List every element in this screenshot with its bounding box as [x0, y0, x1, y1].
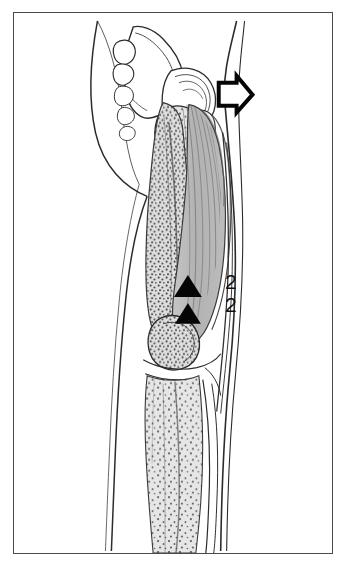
- tibia-stippled: [145, 376, 202, 553]
- figure-frame-border: 2 2: [13, 12, 333, 554]
- figure-page: 2 2: [0, 0, 348, 567]
- label-2-upper: 2: [225, 271, 237, 292]
- label-2-lower: 2: [225, 294, 237, 315]
- anatomy-illustration: [14, 13, 332, 553]
